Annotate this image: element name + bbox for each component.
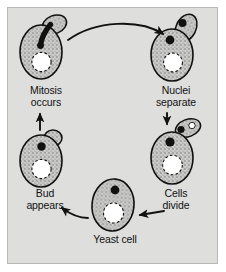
bud-appears-vacuole [32, 159, 51, 178]
stage-cells-divide [151, 115, 203, 184]
stage-mitosis [20, 11, 69, 79]
label-nuclei-separate: Nuclei separate [141, 85, 211, 108]
label-cells-divide: Cells divide [141, 188, 211, 211]
mitosis-vacuole [32, 52, 51, 71]
nuclei-separate-bud-nucleus [179, 19, 187, 27]
cell-cycle-diagram [0, 0, 226, 272]
arrow-mitosis-to-nuclei [68, 24, 163, 40]
label-bud-appears: Bud appears [9, 188, 81, 211]
cells-divide-daughter-vacuole [189, 122, 195, 128]
stage-bud-appears [20, 130, 62, 187]
yeast-cell-cycle-figure: Mitosis occurs Nuclei separate Cells div… [0, 0, 226, 272]
arrow-divide-to-yeast [140, 211, 164, 215]
stage-nuclei-separate [151, 11, 201, 81]
nuclei-separate-vacuole [164, 53, 183, 72]
cells-divide-vacuole [163, 155, 183, 175]
label-mitosis: Mitosis occurs [11, 85, 81, 108]
cells-divide-mother-nucleus [165, 137, 174, 146]
nuclei-separate-mother-nucleus [166, 36, 175, 45]
label-yeast-cell: Yeast cell [76, 234, 154, 246]
yeast-cell-vacuole [104, 203, 124, 223]
yeast-cell-nucleus [111, 186, 120, 195]
cells-divide-daughter-nucleus [177, 126, 184, 133]
bud-appears-nucleus [37, 142, 45, 150]
mitosis-nucleus-lobe [37, 42, 44, 49]
stage-yeast-cell [89, 177, 136, 233]
